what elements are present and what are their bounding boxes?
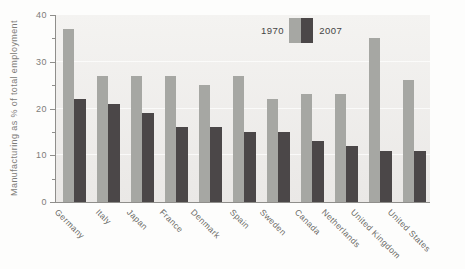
bar-2007-united-kingdom <box>380 151 392 202</box>
legend-label-2007: 2007 <box>319 25 342 36</box>
bar-1970-united-states <box>403 80 415 202</box>
y-tick-label: 20 <box>18 104 47 114</box>
plot-area <box>55 15 430 203</box>
y-tick-label: 10 <box>18 150 47 160</box>
x-tick-label: Italy <box>94 207 114 227</box>
bar-1970-japan <box>131 76 143 202</box>
bar-2007-sweden <box>278 132 290 202</box>
legend: 1970 2007 <box>261 18 342 43</box>
bar-2007-japan <box>142 113 154 202</box>
x-tick-label: Japan <box>125 207 150 232</box>
bar-1970-canada <box>301 94 313 202</box>
x-tick-label: Denmark <box>189 207 222 240</box>
x-tick-label: Canada <box>293 207 323 237</box>
bar-1970-italy <box>97 76 109 202</box>
y-minor-tick-25 <box>52 85 55 86</box>
bar-1970-netherlands <box>335 94 347 202</box>
bar-2007-denmark <box>210 127 222 202</box>
bar-2007-italy <box>108 104 120 202</box>
bar-2007-france <box>176 127 188 202</box>
y-major-tick-10 <box>50 155 55 156</box>
y-tick-label: 0 <box>18 197 47 207</box>
bar-1970-germany <box>63 29 75 202</box>
y-minor-tick-15 <box>52 132 55 133</box>
bar-1970-sweden <box>267 99 279 202</box>
x-tick-label: Germany <box>52 207 86 241</box>
bar-2007-canada <box>312 141 324 202</box>
x-tick-label: Sweden <box>258 207 288 237</box>
bar-2007-spain <box>244 132 256 202</box>
figure: Manufacturing as % of total employment 1… <box>0 0 465 269</box>
y-minor-tick-35 <box>52 38 55 39</box>
bar-1970-france <box>165 76 177 202</box>
bar-2007-netherlands <box>346 146 358 202</box>
y-major-tick-20 <box>50 109 55 110</box>
legend-label-1970: 1970 <box>261 25 284 36</box>
y-major-tick-30 <box>50 62 55 63</box>
y-tick-label: 40 <box>18 10 47 20</box>
y-major-tick-0 <box>50 202 55 203</box>
y-minor-tick-5 <box>52 179 55 180</box>
y-major-tick-40 <box>50 15 55 16</box>
bar-2007-united-states <box>414 151 426 202</box>
x-tick-label: France <box>158 207 185 234</box>
bar-2007-germany <box>74 99 86 202</box>
y-tick-label: 30 <box>18 57 47 67</box>
legend-swatch-2007 <box>301 18 313 43</box>
bar-1970-united-kingdom <box>369 38 381 202</box>
bar-1970-denmark <box>199 85 211 202</box>
legend-swatch-1970 <box>289 18 301 43</box>
bar-1970-spain <box>233 76 245 202</box>
x-tick-label: Spain <box>227 207 251 231</box>
